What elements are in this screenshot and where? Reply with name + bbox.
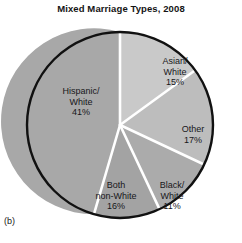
- figure-caption: (b): [4, 216, 15, 226]
- pie-chart-svg: [0, 0, 242, 243]
- pie-chart: Hispanic/ White 41% Asian/ White 15% Oth…: [0, 0, 242, 243]
- figure-panel: Mixed Marriage Types, 2008: [0, 0, 242, 243]
